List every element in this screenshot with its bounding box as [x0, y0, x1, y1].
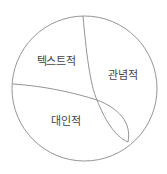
outer-circle — [12, 16, 157, 161]
metafunction-diagram: 텍스트적 관념적 대인적 — [0, 0, 167, 174]
diagram-lines — [0, 0, 167, 174]
region-label-ideational: 관념적 — [108, 66, 137, 82]
region-label-interpersonal: 대인적 — [51, 112, 80, 128]
region-label-textual: 텍스트적 — [37, 52, 76, 68]
